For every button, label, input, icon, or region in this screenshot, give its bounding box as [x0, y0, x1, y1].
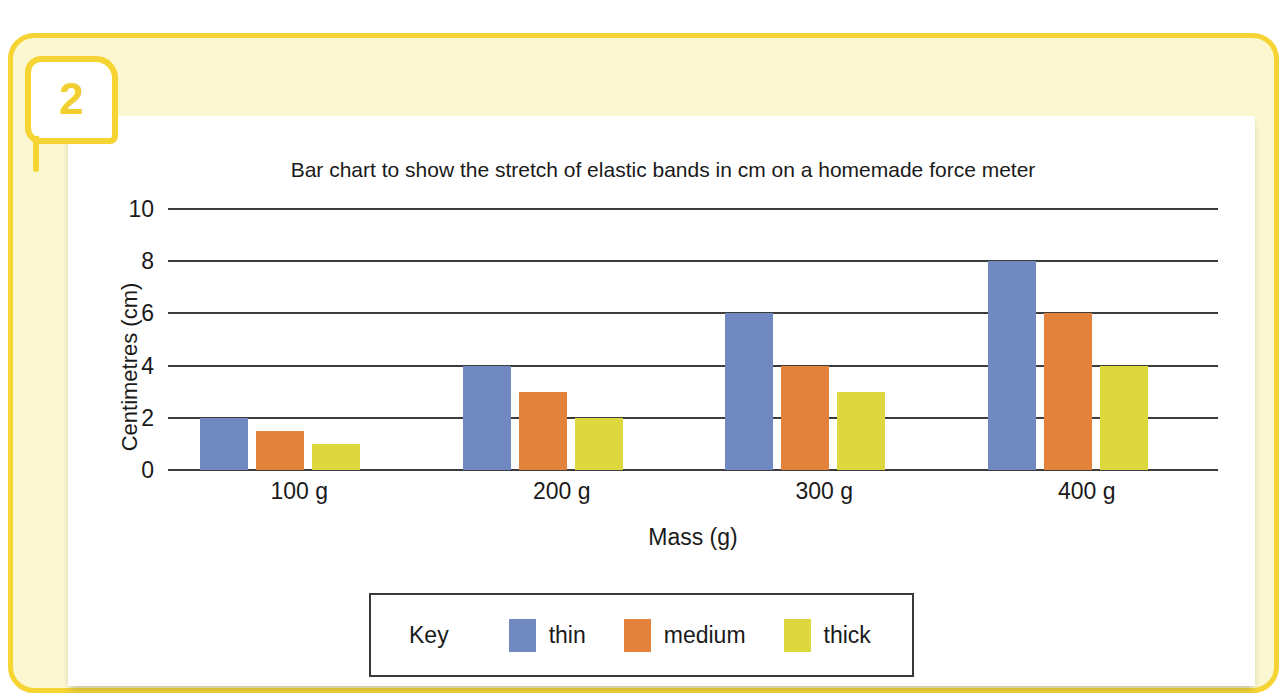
- legend-items: thinmediumthick: [509, 619, 909, 652]
- y-tick-label: 6: [141, 300, 154, 327]
- chart-title: Bar chart to show the stretch of elastic…: [108, 158, 1218, 182]
- question-number-label: 2: [31, 62, 112, 138]
- bar-medium-200g: [519, 392, 567, 470]
- question-number-badge: 2: [25, 56, 118, 144]
- bar-group: [168, 209, 431, 470]
- bar-group: [431, 209, 694, 470]
- bar-medium-100g: [256, 431, 304, 470]
- bar-thin-300g: [725, 313, 773, 470]
- bar-thick-300g: [837, 392, 885, 470]
- question-frame: 2 Bar chart to show the stretch of elast…: [8, 33, 1279, 693]
- legend-label-thick: thick: [824, 622, 871, 649]
- legend-item-medium: medium: [624, 619, 746, 652]
- x-axis-title: Mass (g): [168, 524, 1218, 551]
- x-tick-label: 400 g: [956, 478, 1219, 505]
- bar-chart: Bar chart to show the stretch of elastic…: [68, 116, 1255, 686]
- chart-card: Bar chart to show the stretch of elastic…: [68, 116, 1255, 686]
- legend-swatch-thin: [509, 619, 536, 652]
- bar-thin-100g: [200, 418, 248, 470]
- x-tick-label: 300 g: [693, 478, 956, 505]
- bar-thick-100g: [312, 444, 360, 470]
- chart-legend: Key thinmediumthick: [369, 593, 914, 677]
- bar-thin-200g: [463, 366, 511, 470]
- bar-thin-400g: [988, 261, 1036, 470]
- bar-medium-400g: [1044, 313, 1092, 470]
- legend-item-thin: thin: [509, 619, 586, 652]
- bars-layer: [168, 209, 1218, 470]
- legend-label-thin: thin: [549, 622, 586, 649]
- x-tick-label: 100 g: [168, 478, 431, 505]
- bar-thick-400g: [1100, 366, 1148, 470]
- bar-thick-200g: [575, 418, 623, 470]
- y-tick-label: 0: [141, 457, 154, 484]
- y-tick-label: 2: [141, 404, 154, 431]
- legend-swatch-medium: [624, 619, 651, 652]
- bar-medium-300g: [781, 366, 829, 470]
- legend-swatch-thick: [784, 619, 811, 652]
- bar-group: [693, 209, 956, 470]
- legend-title: Key: [409, 622, 449, 649]
- plot-area: 0246810: [168, 209, 1218, 470]
- y-tick-label: 8: [141, 248, 154, 275]
- legend-item-thick: thick: [784, 619, 871, 652]
- y-tick-label: 4: [141, 352, 154, 379]
- y-axis-title: Centimetres (cm): [117, 242, 143, 492]
- legend-label-medium: medium: [664, 622, 746, 649]
- x-tick-label: 200 g: [431, 478, 694, 505]
- bar-group: [956, 209, 1219, 470]
- y-tick-label: 10: [128, 196, 154, 223]
